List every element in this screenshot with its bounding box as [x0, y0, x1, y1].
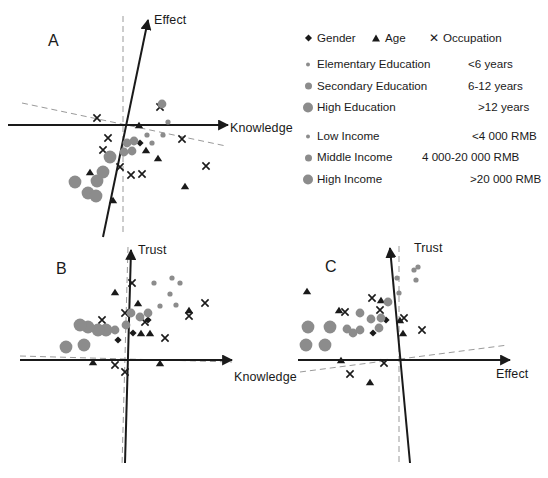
- data-point-small-circle: [177, 280, 182, 285]
- data-point-large-circle: [319, 339, 332, 352]
- data-point-medium-circle: [130, 137, 139, 146]
- data-point-large-circle: [302, 321, 315, 334]
- data-point-small-circle: [173, 302, 178, 307]
- data-point-medium-circle: [343, 325, 352, 334]
- data-point-occupation: [161, 334, 168, 341]
- panel-a-letter: A: [48, 32, 59, 50]
- panel-b-letter: B: [56, 260, 67, 278]
- data-point-small-circle: [415, 264, 420, 269]
- data-point-large-circle: [90, 190, 103, 203]
- data-point-occupation: [346, 370, 353, 377]
- data-point-age: [303, 288, 311, 294]
- panel-b-y-label: Trust: [138, 243, 167, 257]
- data-point-large-circle: [104, 151, 117, 164]
- data-point-medium-circle: [122, 321, 131, 330]
- data-point-age: [146, 330, 154, 336]
- data-point-small-circle: [151, 280, 156, 285]
- data-point-occupation: [185, 312, 192, 319]
- data-point-age: [154, 155, 162, 161]
- panel-c-x-label: Effect: [496, 367, 528, 381]
- data-point-gender: [114, 336, 121, 343]
- data-point-age: [185, 307, 193, 313]
- data-point-occupation: [127, 171, 134, 178]
- data-point-gender: [129, 329, 136, 336]
- data-point-age: [399, 330, 407, 336]
- data-point-medium-circle: [367, 315, 376, 324]
- data-point-age: [111, 289, 119, 295]
- data-point-age: [181, 183, 189, 189]
- data-point-age: [137, 330, 145, 336]
- data-point-small-circle: [394, 275, 399, 280]
- panel-a-y-label: Effect: [154, 13, 186, 27]
- data-point-small-circle: [167, 291, 172, 296]
- data-point-small-circle: [160, 132, 165, 137]
- data-point-small-circle: [144, 132, 149, 137]
- figure-canvas: [0, 0, 548, 478]
- data-point-occupation: [418, 326, 425, 333]
- data-point-small-circle: [396, 290, 401, 295]
- data-point-occupation: [341, 308, 348, 315]
- data-point-large-circle: [69, 176, 82, 189]
- panel-c-letter: C: [325, 258, 337, 276]
- data-point-medium-circle: [136, 313, 145, 322]
- data-point-small-circle: [165, 119, 170, 124]
- data-point-age: [86, 169, 94, 175]
- data-point-large-circle: [78, 339, 91, 352]
- data-point-medium-circle: [377, 314, 386, 323]
- data-point-medium-circle: [144, 309, 153, 318]
- axis-line-dashed: [300, 345, 508, 372]
- data-point-occupation: [111, 361, 118, 368]
- data-point-medium-circle: [375, 324, 384, 333]
- data-point-large-circle: [91, 175, 104, 188]
- data-point-age: [142, 147, 150, 153]
- data-point-occupation: [202, 162, 209, 169]
- panel-c-y-label: Trust: [414, 241, 443, 255]
- data-point-occupation: [376, 306, 383, 313]
- data-point-occupation: [98, 316, 105, 323]
- data-point-small-circle: [149, 140, 154, 145]
- data-point-medium-circle: [158, 100, 167, 109]
- data-point-occupation: [201, 299, 208, 306]
- data-point-small-circle: [413, 277, 418, 282]
- data-point-large-circle: [300, 339, 313, 352]
- data-point-small-circle: [157, 303, 162, 308]
- data-point-large-circle: [74, 319, 87, 332]
- panel-b-x-label: Knowledge: [234, 370, 297, 384]
- data-point-age: [366, 379, 374, 385]
- panel-a-x-label: Knowledge: [230, 121, 293, 135]
- data-point-medium-circle: [127, 309, 136, 318]
- data-point-small-circle: [169, 275, 174, 280]
- data-point-medium-circle: [128, 147, 137, 156]
- axis-line-solid: [390, 248, 410, 463]
- data-point-large-circle: [324, 321, 337, 334]
- data-point-large-circle: [60, 341, 73, 354]
- data-point-medium-circle: [356, 309, 365, 318]
- data-point-occupation: [138, 170, 145, 177]
- data-point-age: [134, 300, 142, 306]
- data-point-medium-circle: [384, 298, 393, 307]
- data-point-occupation: [104, 134, 111, 141]
- data-point-medium-circle: [120, 148, 129, 157]
- data-point-occupation: [368, 294, 375, 301]
